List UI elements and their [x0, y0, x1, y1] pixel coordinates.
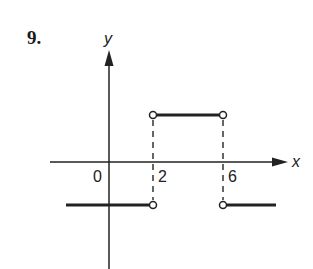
tick-label-6: 6: [228, 168, 237, 185]
origin-label: 0: [93, 168, 102, 185]
x-axis-label: x: [291, 153, 301, 170]
step-function-graph: y x 0 2 6: [0, 0, 313, 269]
open-circle-icon: [150, 202, 157, 209]
open-circle-icon: [220, 112, 227, 119]
tick-label-2: 2: [158, 168, 167, 185]
open-circle-icon: [220, 202, 227, 209]
x-axis-arrow-icon: [272, 158, 288, 167]
open-circle-icon: [150, 112, 157, 119]
y-axis-arrow-icon: [105, 50, 114, 66]
y-axis-label: y: [103, 30, 113, 47]
